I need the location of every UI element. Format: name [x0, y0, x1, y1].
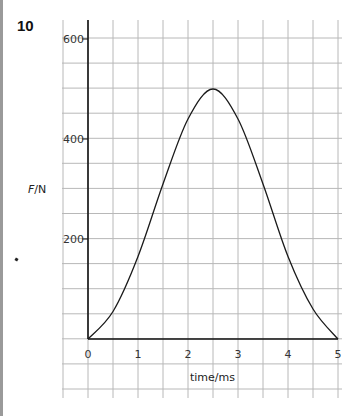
svg-text:400: 400 [63, 133, 84, 146]
grid [62, 20, 342, 398]
svg-text:2: 2 [185, 348, 192, 361]
y-tick-labels: 200400600 [63, 33, 88, 246]
force-time-chart: 200400600 012345 F/N time/ms [0, 0, 359, 416]
svg-text:200: 200 [63, 233, 84, 246]
svg-text:3: 3 [235, 348, 242, 361]
y-axis-label: F/N [28, 183, 46, 196]
svg-text:5: 5 [335, 348, 342, 361]
svg-text:1: 1 [135, 348, 142, 361]
svg-text:0: 0 [85, 348, 92, 361]
svg-text:4: 4 [285, 348, 292, 361]
x-axis-label: time/ms [190, 371, 235, 384]
svg-text:600: 600 [63, 33, 84, 46]
